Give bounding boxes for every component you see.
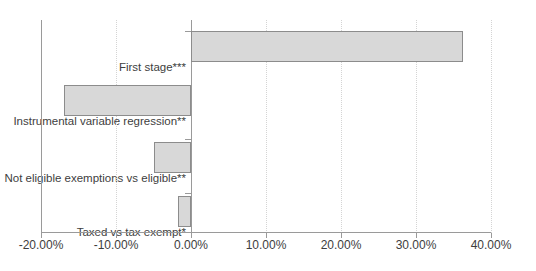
value-label-40: 40.00% xyxy=(471,238,512,252)
bar-first-stage xyxy=(191,31,463,62)
value-label-minus-10: -10.00% xyxy=(94,238,139,252)
bar-taxed-vs-tax-exempt xyxy=(178,196,192,227)
value-label-minus-20: -20.00% xyxy=(19,238,64,252)
value-label-0: 0.00% xyxy=(174,238,208,252)
value-label-20: 20.00% xyxy=(321,238,362,252)
left-axis-spine xyxy=(41,20,42,233)
category-tick-3 xyxy=(185,193,191,194)
plot-area xyxy=(41,20,491,233)
value-label-30: 30.00% xyxy=(396,238,437,252)
bar-not-eligible-exemptions-vs-eligible xyxy=(154,142,192,173)
gridline-40 xyxy=(491,20,492,233)
value-label-10: 10.00% xyxy=(246,238,287,252)
value-axis-labels: -20.00% -10.00% 0.00% 10.00% 20.00% 30.0… xyxy=(0,238,536,260)
gridline-minus-10 xyxy=(116,20,117,233)
bar-instrumental-variable-regression xyxy=(64,85,192,116)
bar-chart: First stage*** Instrumental variable reg… xyxy=(0,0,536,271)
category-tick-2 xyxy=(185,139,191,140)
